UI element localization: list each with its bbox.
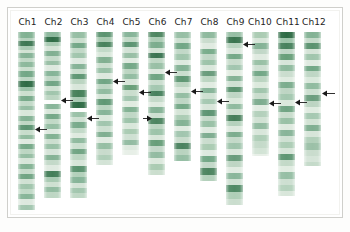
gel-band: [122, 145, 139, 150]
gel-band: [304, 143, 321, 150]
gel-lane-ch9[interactable]: [226, 32, 243, 205]
arrow-ch8-icon: [217, 98, 229, 105]
arrow-ch3-icon: [87, 115, 99, 122]
arrow-ch11-icon: [295, 99, 307, 106]
gel-band: [200, 168, 217, 175]
arrow-ch6-left-icon: [143, 115, 152, 122]
lane-label-ch3: Ch3: [68, 17, 91, 27]
lane-band-stack: [122, 32, 139, 155]
lane-label-ch2: Ch2: [42, 17, 65, 27]
arrow-ch4-icon: [113, 78, 125, 85]
gel-lane-ch7[interactable]: [174, 32, 191, 161]
lane-band-stack: [96, 32, 113, 165]
gel-band: [200, 175, 217, 181]
gel-band: [252, 148, 269, 154]
lane-band-stack: [18, 32, 35, 213]
lane-label-ch4: Ch4: [94, 17, 117, 27]
gel-band: [174, 155, 191, 161]
arrow-ch7-icon: [191, 88, 203, 95]
gel-lane-ch10[interactable]: [252, 32, 269, 156]
arrow-ch5-icon: [139, 89, 151, 96]
lane-band-stack: [70, 32, 87, 198]
gel-band: [18, 210, 35, 213]
lane-label-ch11: Ch11: [276, 17, 299, 27]
gel-lane-ch11[interactable]: [278, 32, 295, 196]
gel-lane-ch8[interactable]: [200, 32, 217, 181]
gel-band: [278, 191, 295, 196]
lane-label-ch7: Ch7: [172, 17, 195, 27]
gel-lane-ch1[interactable]: [18, 32, 35, 213]
arrow-ch10-icon: [269, 100, 281, 107]
gel-lane-ch5[interactable]: [122, 32, 139, 155]
lane-band-stack: [148, 32, 165, 175]
gel-band: [252, 141, 269, 148]
gel-band: [226, 199, 243, 205]
lane-label-ch8: Ch8: [198, 17, 221, 27]
lane-label-ch9: Ch9: [224, 17, 247, 27]
gel-band: [96, 160, 113, 165]
gel-lane-ch3[interactable]: [70, 32, 87, 198]
arrow-ch6-icon: [165, 69, 177, 76]
lane-label-ch10: Ch10: [248, 17, 271, 27]
gel-band: [304, 162, 321, 166]
gel-band: [70, 90, 87, 97]
lane-label-ch1: Ch1: [16, 17, 39, 27]
gel-band: [278, 172, 295, 179]
gel-figure: Ch1Ch2Ch3Ch4Ch5Ch6Ch7Ch8Ch9Ch10Ch11Ch12: [0, 0, 350, 232]
gel-plot-area: Ch1Ch2Ch3Ch4Ch5Ch6Ch7Ch8Ch9Ch10Ch11Ch12: [0, 0, 350, 232]
lane-band-stack: [252, 32, 269, 156]
lane-label-ch12: Ch12: [302, 17, 325, 27]
gel-lane-ch2[interactable]: [44, 32, 61, 198]
gel-band: [148, 170, 165, 175]
arrow-ch12-icon: [322, 90, 335, 97]
arrow-ch9-icon: [243, 41, 255, 48]
lane-label-ch6: Ch6: [146, 17, 169, 27]
gel-band: [226, 185, 243, 192]
lane-band-stack: [226, 32, 243, 205]
gel-band: [44, 192, 61, 198]
lane-band-stack: [200, 32, 217, 181]
lane-band-stack: [44, 32, 61, 198]
arrow-ch2-icon: [61, 97, 73, 104]
lane-band-stack: [174, 32, 191, 161]
gel-band: [226, 192, 243, 199]
gel-lane-ch4[interactable]: [96, 32, 113, 165]
gel-band: [70, 193, 87, 198]
lane-band-stack: [278, 32, 295, 196]
lane-label-ch5: Ch5: [120, 17, 143, 27]
arrow-ch1-icon: [35, 126, 47, 133]
gel-lane-ch6[interactable]: [148, 32, 165, 175]
